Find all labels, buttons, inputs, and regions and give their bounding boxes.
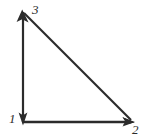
vertex-label-1: 1 [9, 112, 16, 125]
triangle-canvas [0, 0, 157, 140]
triangle-diagram: 1 2 3 [0, 0, 157, 140]
edge-hypotenuse [24, 13, 131, 120]
vertex-label-3: 3 [32, 3, 39, 16]
vertex-label-2: 2 [132, 123, 139, 136]
